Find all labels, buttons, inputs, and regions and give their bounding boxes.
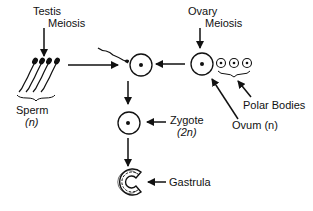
sperm-cells-icon xyxy=(19,57,60,92)
testis-label: Testis xyxy=(33,5,61,17)
polar-bodies-pointer xyxy=(238,81,251,97)
ovum-label: Ovum (n) xyxy=(232,119,278,131)
sperm-label: Sperm xyxy=(16,104,48,116)
sperm-brace xyxy=(17,95,55,101)
zygote-ploidy-label: (2n) xyxy=(177,126,197,138)
polar-bodies-label: Polar Bodies xyxy=(243,99,305,111)
testis-meiosis-label: Meiosis xyxy=(48,17,85,29)
polar-bodies-brace xyxy=(218,71,250,77)
sperm-ploidy-label: (n) xyxy=(25,116,38,128)
fertilization-diagram: Testis Meiosis Sperm (n) Ovary Meiosis P… xyxy=(0,0,313,211)
ovary-label: Ovary xyxy=(188,5,217,17)
polar-bodies-icon xyxy=(217,59,252,68)
ovary-meiosis-label: Meiosis xyxy=(205,17,242,29)
gastrula-label: Gastrula xyxy=(169,176,211,188)
fertilizing-sperm-icon xyxy=(98,48,128,63)
ovum-pointer xyxy=(212,79,238,119)
gastrula-icon xyxy=(118,169,141,195)
zygote-label: Zygote xyxy=(170,114,204,126)
